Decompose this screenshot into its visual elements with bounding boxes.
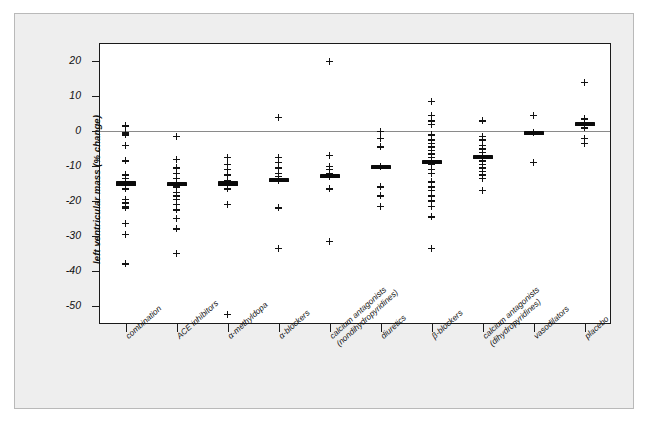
- data-point: [275, 204, 282, 211]
- data-point: [173, 175, 180, 182]
- data-point: [122, 203, 129, 210]
- group-mean-marker: [167, 182, 187, 186]
- data-point: [275, 154, 282, 161]
- data-point: [479, 168, 486, 175]
- figure-canvas: left ventricular mass (% change) 20100-1…: [0, 0, 648, 422]
- group-mean-marker: [320, 174, 340, 178]
- x-axis-tick-label-line: β-blockers: [430, 308, 465, 341]
- data-point: [173, 170, 180, 177]
- y-axis-tick-label: -40: [41, 264, 81, 276]
- y-axis-tick: -50: [92, 306, 100, 307]
- data-point: [173, 201, 180, 208]
- data-point: [428, 150, 435, 157]
- x-axis-tick-label: α-methyldopa: [226, 300, 270, 341]
- group-mean-marker: [218, 181, 238, 185]
- data-point: [377, 203, 384, 210]
- data-point: [428, 98, 435, 105]
- x-axis-tick-label: ACE inhibitors: [175, 299, 220, 341]
- data-point: [428, 187, 435, 194]
- data-point: [122, 171, 129, 178]
- data-point: [122, 199, 129, 206]
- data-point: [479, 187, 486, 194]
- data-point: [377, 143, 384, 150]
- x-axis-tick-label-line: vasodilators: [532, 304, 571, 341]
- data-point: [479, 142, 486, 149]
- data-point: [224, 154, 231, 161]
- data-point: [428, 197, 435, 204]
- y-axis-tick-label: -50: [41, 299, 81, 311]
- x-axis-tick-label-line: combination: [124, 304, 164, 341]
- group-mean-marker: [116, 181, 136, 185]
- data-point: [428, 136, 435, 143]
- data-point: [224, 161, 231, 168]
- data-point: [479, 161, 486, 168]
- y-axis-tick-label: -10: [41, 159, 81, 171]
- data-point: [428, 147, 435, 154]
- data-point: [122, 122, 129, 129]
- data-point: [428, 166, 435, 173]
- y-axis-tick-label: -30: [41, 229, 81, 241]
- x-axis-tick-label-line: α-blockers: [277, 308, 312, 341]
- x-axis-tick-label-line: placebo: [583, 315, 611, 342]
- data-point: [377, 135, 384, 142]
- data-point: [428, 183, 435, 190]
- data-point: [428, 143, 435, 150]
- data-point: [428, 203, 435, 210]
- data-point: [428, 245, 435, 252]
- data-point: [173, 215, 180, 222]
- data-point: [122, 204, 129, 211]
- x-axis-tick-label-line: ACE inhibitors: [175, 299, 220, 341]
- y-axis-tick-label: 20: [41, 54, 81, 66]
- data-point: [377, 183, 384, 190]
- data-point: [428, 117, 435, 124]
- data-point: [428, 213, 435, 220]
- data-point: [326, 163, 333, 170]
- x-axis-tick-label-line: α-methyldopa: [226, 300, 270, 341]
- data-point: [428, 178, 435, 185]
- data-point: [479, 145, 486, 152]
- y-axis-tick-label: -20: [41, 194, 81, 206]
- x-axis-tick-label: placebo: [583, 315, 611, 342]
- data-point: [428, 121, 435, 128]
- data-point: [275, 245, 282, 252]
- data-point: [224, 311, 231, 318]
- data-point: [428, 112, 435, 119]
- data-point: [173, 196, 180, 203]
- data-point: [581, 140, 588, 147]
- data-point: [479, 117, 486, 124]
- figure-panel: left ventricular mass (% change) 20100-1…: [14, 13, 634, 409]
- data-point: [275, 164, 282, 171]
- group-mean-marker: [269, 178, 289, 182]
- data-point: [122, 142, 129, 149]
- data-point: [326, 58, 333, 65]
- y-axis-tick: -40: [92, 271, 100, 272]
- data-point: [224, 185, 231, 192]
- data-point: [581, 79, 588, 86]
- data-point: [479, 171, 486, 178]
- y-axis-tick-label: 10: [41, 89, 81, 101]
- data-point: [326, 185, 333, 192]
- data-point: [122, 196, 129, 203]
- data-point: [326, 152, 333, 159]
- data-point: [173, 189, 180, 196]
- group-mean-marker: [422, 160, 442, 164]
- data-point: [479, 175, 486, 182]
- x-axis-tick-label: combination: [124, 304, 164, 341]
- y-axis-tick: -30: [92, 236, 100, 237]
- y-axis-tick: 10: [92, 96, 100, 97]
- group-mean-marker: [524, 131, 544, 135]
- x-axis-tick-label: α-blockers: [277, 308, 312, 341]
- y-axis-tick: -20: [92, 201, 100, 202]
- data-point: [122, 220, 129, 227]
- data-point: [479, 133, 486, 140]
- data-point: [122, 260, 129, 267]
- x-axis-tick-label-line: diuretics: [379, 313, 408, 341]
- group-mean-marker: [473, 155, 493, 159]
- data-point: [224, 166, 231, 173]
- data-point: [173, 225, 180, 232]
- data-point: [530, 159, 537, 166]
- data-point: [224, 171, 231, 178]
- data-point: [122, 231, 129, 238]
- x-axis-tick-label: vasodilators: [532, 304, 571, 341]
- group-mean-marker: [371, 165, 391, 169]
